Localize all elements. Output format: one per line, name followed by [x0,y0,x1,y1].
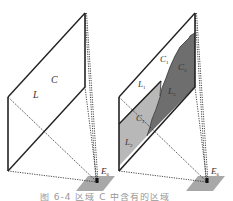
plane-outline-left [8,13,85,171]
region-l3-dark [147,33,195,136]
right-panel: C1 C3 L1 L3 C2 L2 E6 [119,13,225,191]
eye-point-right [206,178,209,183]
diagram-figure: C L E6 C1 C3 [0,0,233,201]
label-plane-c: C [51,74,58,85]
label-light-l: L [32,89,39,100]
label-eye-e-right: E6 [210,166,220,177]
eye-point-left [96,178,99,183]
figure-caption-text: 图 6-4 区域 C 中含有的区域 [40,193,200,201]
label-l1: L1 [137,79,146,90]
label-c1: C1 [160,54,169,65]
left-panel: C L E6 [8,13,115,191]
label-eye-e: E6 [100,166,110,177]
figure-caption: 图 6-4 区域 C 中含有的区域 [40,193,200,201]
